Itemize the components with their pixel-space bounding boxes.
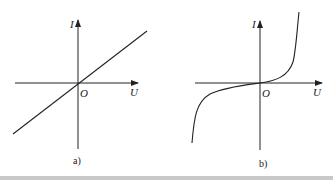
panel-a: I O U a) xyxy=(13,18,147,167)
x-axis-label: U xyxy=(130,86,139,98)
iv-characteristics-figure: I O U a) I O U b) xyxy=(0,0,333,176)
panel-caption: b) xyxy=(259,158,267,170)
panel-caption: a) xyxy=(73,155,81,167)
y-axis-label: I xyxy=(251,18,257,30)
nonlinear-iv-curve xyxy=(192,12,299,143)
y-axis-label: I xyxy=(69,18,75,30)
bottom-divider-bar xyxy=(0,176,333,180)
origin-label: O xyxy=(262,87,270,99)
x-axis-label: U xyxy=(313,86,322,98)
panel-b: I O U b) xyxy=(192,12,322,170)
origin-label: O xyxy=(80,87,88,99)
